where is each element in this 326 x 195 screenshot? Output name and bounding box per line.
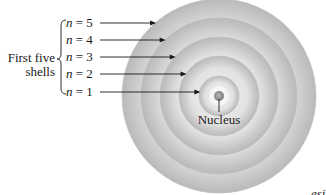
shell-label-n3: n = 3 (66, 49, 93, 64)
nucleus-label: Nucleus (198, 112, 241, 127)
shell-label-n1: n = 1 (66, 84, 93, 99)
shell-label-n4: n = 4 (66, 32, 93, 47)
group-label-line1: First five (8, 50, 56, 65)
corner-text: esi (311, 186, 326, 195)
group-brace (57, 20, 66, 94)
shell-label-n5: n = 5 (66, 15, 93, 30)
group-label-line2: shells (25, 64, 55, 79)
shell-label-n2: n = 2 (66, 66, 93, 81)
atomic-shells-diagram: Nucleus n = 5n = 4n = 3n = 2n = 1 First … (0, 0, 326, 195)
